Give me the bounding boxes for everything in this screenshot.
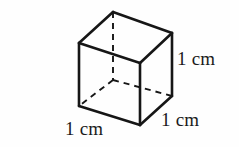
- cube-solid-edges: [79, 12, 172, 125]
- height-dimension-label: 1 cm: [177, 49, 215, 68]
- edge-top-front-right-to-top-front-left: [140, 33, 172, 63]
- edge-top-back-right-to-top-front-right: [113, 12, 172, 33]
- hidden-edge-to-front-right: [113, 80, 172, 96]
- width-dimension-label: 1 cm: [65, 119, 103, 138]
- hidden-edge-to-back-left: [79, 80, 113, 106]
- depth-dimension-label: 1 cm: [161, 110, 199, 129]
- edge-top-back-left-to-top-back-right: [79, 12, 113, 43]
- edge-top-front-left-to-top-back-left: [79, 43, 140, 63]
- cube-figure: 1 cm 1 cm 1 cm: [0, 0, 239, 147]
- cube-wireframe-svg: [0, 0, 239, 147]
